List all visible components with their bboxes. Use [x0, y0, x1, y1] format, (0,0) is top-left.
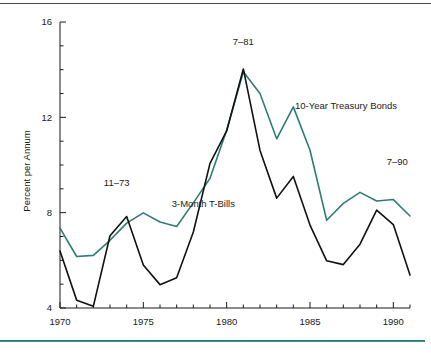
annotation-7-90: 7–90	[387, 156, 408, 167]
x-tick-label: 1980	[216, 316, 237, 327]
x-tick-label: 1975	[133, 316, 154, 327]
chart-annotations: 11–737–817–9010-Year Treasury Bonds3-Mon…	[104, 36, 408, 209]
y-axis-title: Percent per Annum	[21, 130, 32, 211]
x-tick-label: 1970	[49, 316, 70, 327]
figure-container: 481216 19701975198019851990 Percent per …	[0, 0, 431, 355]
series-label-bonds: 10-Year Treasury Bonds	[295, 100, 397, 111]
y-tick-label: 4	[47, 302, 52, 313]
annotation-11-73: 11–73	[104, 177, 130, 188]
y-axis-title-text: Percent per Annum	[21, 130, 32, 211]
line-chart: 481216 19701975198019851990 Percent per …	[0, 0, 431, 355]
x-tick-label: 1990	[383, 316, 404, 327]
bottom-divider-rule-shadow	[0, 341, 425, 342]
y-tick-label: 12	[41, 112, 52, 123]
x-tick-labels: 19701975198019851990	[49, 316, 403, 327]
series-label-tbills: 3-Month T-Bills	[172, 198, 235, 209]
y-tick-label: 16	[41, 16, 52, 27]
y-tick-labels: 481216	[41, 16, 52, 313]
x-axis	[60, 302, 410, 308]
annotation-7-81: 7–81	[233, 36, 254, 47]
y-tick-label: 8	[47, 207, 52, 218]
x-tick-label: 1985	[299, 316, 320, 327]
